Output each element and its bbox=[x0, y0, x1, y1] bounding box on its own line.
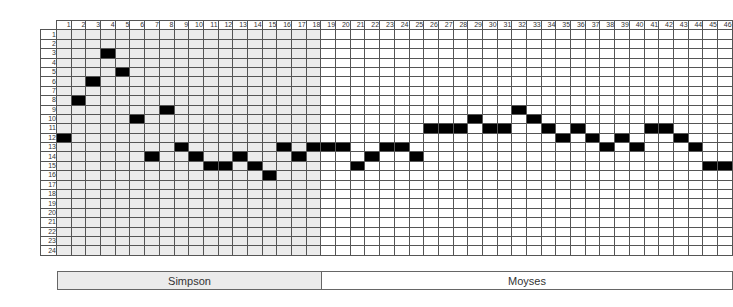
grid-cell bbox=[145, 208, 160, 217]
filled-cell bbox=[453, 124, 468, 133]
grid-cell bbox=[203, 133, 218, 142]
grid-cell bbox=[644, 86, 659, 95]
grid-cell bbox=[717, 199, 732, 208]
grid-cell bbox=[571, 105, 586, 114]
grid-cell bbox=[541, 96, 556, 105]
grid-cell bbox=[482, 152, 497, 161]
grid-cell bbox=[159, 86, 174, 95]
grid-cell bbox=[159, 143, 174, 152]
grid-cell bbox=[527, 218, 542, 227]
grid-cell bbox=[277, 218, 292, 227]
grid-cell bbox=[571, 39, 586, 48]
grid-cell bbox=[380, 133, 395, 142]
filled-cell bbox=[174, 143, 189, 152]
grid-cell bbox=[115, 199, 130, 208]
grid-cell bbox=[703, 39, 718, 48]
grid-cell bbox=[247, 96, 262, 105]
grid-cell bbox=[585, 180, 600, 189]
grid-cell bbox=[482, 86, 497, 95]
grid-cell bbox=[101, 114, 116, 123]
grid-cell bbox=[585, 227, 600, 236]
grid-cell bbox=[101, 105, 116, 114]
grid-cell bbox=[86, 161, 101, 170]
grid-cell bbox=[350, 236, 365, 245]
column-header: 46 bbox=[717, 21, 732, 30]
grid-cell bbox=[277, 67, 292, 76]
grid-cell bbox=[409, 180, 424, 189]
grid-cell bbox=[277, 152, 292, 161]
grid-cell bbox=[659, 199, 674, 208]
grid-cell bbox=[644, 161, 659, 170]
grid-cell bbox=[409, 227, 424, 236]
grid-cell bbox=[292, 49, 307, 58]
grid-cell bbox=[277, 30, 292, 39]
grid-cell bbox=[174, 180, 189, 189]
grid-cell bbox=[336, 49, 351, 58]
grid-cell bbox=[189, 227, 204, 236]
grid-cell bbox=[365, 143, 380, 152]
grid-cell bbox=[438, 190, 453, 199]
grid-cell bbox=[174, 199, 189, 208]
grid-cell bbox=[145, 124, 160, 133]
grid-cell bbox=[659, 152, 674, 161]
grid-cell bbox=[130, 86, 145, 95]
column-header: 35 bbox=[556, 21, 571, 30]
grid-chart: 1234567891011121314151617181920212223242… bbox=[0, 0, 733, 307]
grid-cell bbox=[86, 199, 101, 208]
grid-cell bbox=[115, 133, 130, 142]
column-header: 38 bbox=[600, 21, 615, 30]
grid-cell bbox=[438, 58, 453, 67]
grid-cell bbox=[350, 143, 365, 152]
grid-cell bbox=[424, 96, 439, 105]
grid-cell bbox=[321, 30, 336, 39]
row-header: 15 bbox=[41, 161, 57, 170]
grid-cell bbox=[527, 208, 542, 217]
grid-cell bbox=[203, 67, 218, 76]
filled-cell bbox=[527, 114, 542, 123]
column-header: 7 bbox=[145, 21, 160, 30]
grid-cell bbox=[394, 218, 409, 227]
grid-cell bbox=[512, 227, 527, 236]
grid-cell bbox=[203, 124, 218, 133]
grid-cell bbox=[262, 161, 277, 170]
grid-cell bbox=[71, 49, 86, 58]
grid-cell bbox=[644, 105, 659, 114]
grid-cell bbox=[600, 190, 615, 199]
grid-cell bbox=[86, 124, 101, 133]
grid-cell bbox=[644, 236, 659, 245]
grid-cell bbox=[203, 49, 218, 58]
grid-cell bbox=[101, 161, 116, 170]
grid-cell bbox=[233, 39, 248, 48]
grid-cell bbox=[600, 161, 615, 170]
grid-cell bbox=[673, 180, 688, 189]
grid-cell bbox=[659, 114, 674, 123]
grid-cell bbox=[292, 180, 307, 189]
grid-cell bbox=[527, 30, 542, 39]
grid-cell bbox=[145, 77, 160, 86]
grid-cell bbox=[468, 236, 483, 245]
grid-cell bbox=[438, 105, 453, 114]
grid-cell bbox=[600, 58, 615, 67]
grid-cell bbox=[541, 236, 556, 245]
grid-cell bbox=[86, 171, 101, 180]
column-header: 30 bbox=[482, 21, 497, 30]
grid-cell bbox=[585, 199, 600, 208]
grid-cell bbox=[159, 171, 174, 180]
grid-cell bbox=[159, 58, 174, 67]
grid-cell bbox=[571, 246, 586, 255]
grid-cell bbox=[438, 77, 453, 86]
grid-cell bbox=[218, 77, 233, 86]
grid-cell bbox=[394, 227, 409, 236]
grid-cell bbox=[600, 77, 615, 86]
grid-cell bbox=[292, 96, 307, 105]
grid-cell bbox=[189, 30, 204, 39]
grid-cell bbox=[497, 152, 512, 161]
grid-cell bbox=[321, 86, 336, 95]
grid-cell bbox=[673, 143, 688, 152]
grid-cell bbox=[380, 199, 395, 208]
grid-cell bbox=[203, 180, 218, 189]
grid-cell bbox=[277, 124, 292, 133]
grid-cell bbox=[115, 227, 130, 236]
grid-cell bbox=[365, 30, 380, 39]
grid-cell bbox=[438, 152, 453, 161]
